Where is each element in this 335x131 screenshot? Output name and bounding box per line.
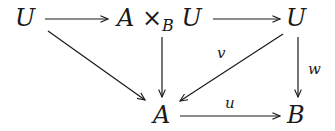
pullback-times: × <box>142 4 162 32</box>
pullback-u: U <box>182 4 202 32</box>
label-u: u <box>225 96 235 111</box>
node-a-bottom: A <box>153 103 170 127</box>
label-w: w <box>308 62 321 77</box>
pullback-a: A <box>117 4 134 32</box>
label-v: v <box>217 46 225 61</box>
arrow-u-to-a-diagonal <box>48 31 145 100</box>
node-pullback: A ×B U <box>117 6 202 30</box>
node-b-bottom: B <box>287 103 305 127</box>
arrow-v <box>180 34 283 101</box>
pullback-subscript-b: B <box>162 16 174 35</box>
node-u-left: U <box>15 6 35 30</box>
node-u-right: U <box>286 6 306 30</box>
